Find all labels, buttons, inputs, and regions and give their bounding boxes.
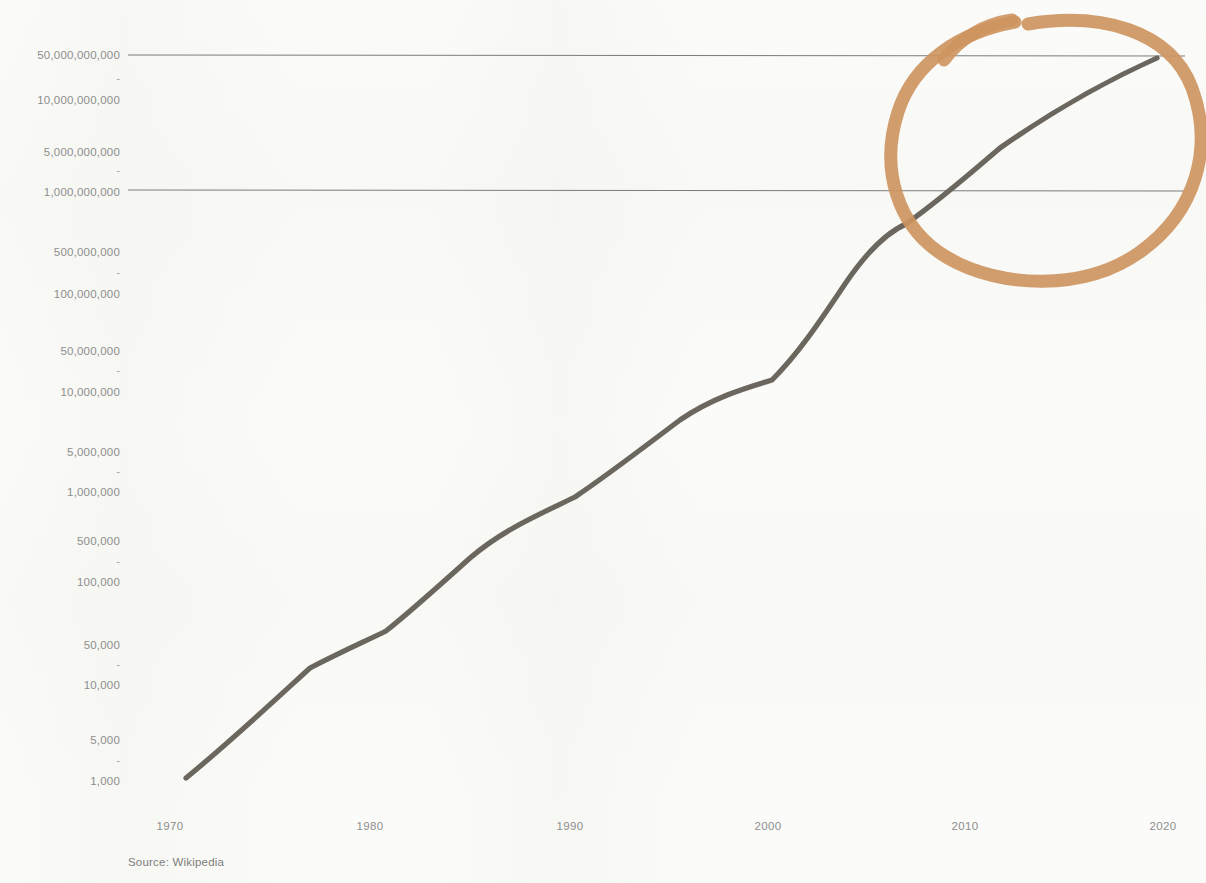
chart-canvas <box>0 0 1206 883</box>
data-series-transistor-count <box>186 58 1157 778</box>
y-tick-label: 10,000,000,000 <box>0 94 120 106</box>
x-tick-label-1980: 1980 <box>357 820 384 832</box>
gridline-50b <box>128 55 1185 56</box>
gridline-1b <box>128 190 1185 191</box>
x-tick-label-2010: 2010 <box>952 820 979 832</box>
chart-figure: 50,000,000,000 - 10,000,000,000 5,000,00… <box>0 0 1206 883</box>
source-note: Source: Wikipedia <box>128 856 224 868</box>
x-tick-label-1970: 1970 <box>157 820 184 832</box>
y-tick-dash: - <box>0 266 120 278</box>
y-tick-label: 100,000,000 <box>0 288 120 300</box>
y-tick-label: 5,000,000,000 <box>0 146 120 158</box>
y-tick-label: 10,000,000 <box>0 386 120 398</box>
y-tick-dash: - <box>0 555 120 567</box>
y-tick-label: 50,000 <box>0 639 120 651</box>
y-tick-label: 5,000 <box>0 734 120 746</box>
y-tick-dash: - <box>0 658 120 670</box>
y-tick-dash: - <box>0 465 120 477</box>
y-tick-label: 500,000,000 <box>0 246 120 258</box>
transistor-count-line <box>186 58 1157 778</box>
y-tick-label: 10,000 <box>0 679 120 691</box>
y-tick-label: 50,000,000,000 <box>0 49 120 61</box>
y-tick-dash: - <box>0 754 120 766</box>
y-tick-label: 50,000,000 <box>0 345 120 357</box>
highlight-circle-stroke-tail <box>944 20 1012 60</box>
y-tick-label: 1,000,000,000 <box>0 186 120 198</box>
y-tick-dash: - <box>0 364 120 376</box>
x-tick-label-2000: 2000 <box>755 820 782 832</box>
y-tick-dash: - <box>0 72 120 84</box>
y-tick-label: 1,000 <box>0 775 120 787</box>
y-tick-label: 1,000,000 <box>0 486 120 498</box>
y-tick-label: 500,000 <box>0 535 120 547</box>
y-tick-dash: - <box>0 164 120 176</box>
y-tick-label: 5,000,000 <box>0 446 120 458</box>
y-tick-label: 100,000 <box>0 576 120 588</box>
x-tick-label-2020: 2020 <box>1150 820 1177 832</box>
x-tick-label-1990: 1990 <box>557 820 584 832</box>
gridlines <box>128 55 1185 191</box>
